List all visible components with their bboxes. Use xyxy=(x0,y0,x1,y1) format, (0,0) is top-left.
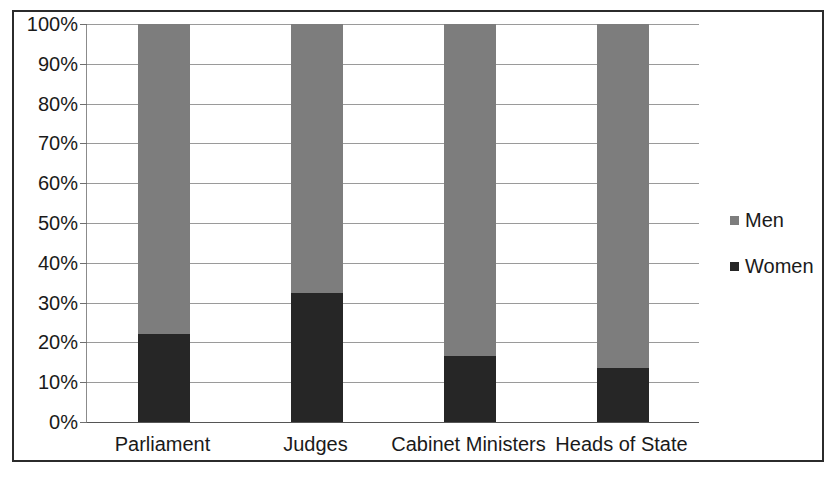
y-tick-90% xyxy=(80,64,87,65)
chart-legend: MenWomen xyxy=(730,210,820,302)
bar-segment-men xyxy=(291,24,343,293)
y-tick-100% xyxy=(80,24,87,25)
y-tick-20% xyxy=(80,342,87,343)
y-tick-label: 70% xyxy=(38,133,78,153)
y-tick-80% xyxy=(80,104,87,105)
bar-group xyxy=(444,24,496,422)
y-tick-label: 50% xyxy=(38,213,78,233)
bar-segment-women xyxy=(138,334,190,422)
bar-group xyxy=(597,24,649,422)
bar-segment-men xyxy=(444,24,496,356)
legend-label: Women xyxy=(745,256,814,276)
x-tick-label: Parliament xyxy=(115,433,211,456)
y-tick-label: 90% xyxy=(38,54,78,74)
y-tick-10% xyxy=(80,382,87,383)
plot-area xyxy=(86,24,699,423)
y-tick-label: 10% xyxy=(38,372,78,392)
bar-segment-women xyxy=(291,293,343,422)
y-tick-60% xyxy=(80,183,87,184)
y-tick-label: 80% xyxy=(38,94,78,114)
bar-group xyxy=(291,24,343,422)
y-tick-label: 0% xyxy=(49,412,78,432)
y-tick-label: 40% xyxy=(38,253,78,273)
legend-item-women[interactable]: Women xyxy=(730,256,820,276)
chart-frame: 0%10%20%30%40%50%60%70%80%90%100% Parlia… xyxy=(12,10,824,462)
x-axis: ParliamentJudgesCabinet MinistersHeads o… xyxy=(86,429,699,463)
x-tick-label: Cabinet Ministers xyxy=(391,433,546,456)
x-tick-label: Judges xyxy=(283,433,348,456)
gridline-0% xyxy=(87,422,699,423)
y-tick-30% xyxy=(80,303,87,304)
x-tick-label: Heads of State xyxy=(555,433,687,456)
bar-group xyxy=(138,24,190,422)
legend-item-men[interactable]: Men xyxy=(730,210,820,230)
y-tick-label: 30% xyxy=(38,293,78,313)
y-axis: 0%10%20%30%40%50%60%70%80%90%100% xyxy=(14,24,86,423)
y-tick-70% xyxy=(80,143,87,144)
y-tick-label: 100% xyxy=(27,14,78,34)
y-tick-label: 20% xyxy=(38,332,78,352)
bar-segment-women xyxy=(444,356,496,422)
bar-segment-men xyxy=(597,24,649,368)
y-tick-50% xyxy=(80,223,87,224)
legend-swatch-icon xyxy=(730,216,739,225)
bar-segment-women xyxy=(597,368,649,422)
legend-swatch-icon xyxy=(730,262,739,271)
y-tick-label: 60% xyxy=(38,173,78,193)
y-tick-0% xyxy=(80,422,87,423)
legend-label: Men xyxy=(745,210,784,230)
y-tick-40% xyxy=(80,263,87,264)
bar-segment-men xyxy=(138,24,190,334)
